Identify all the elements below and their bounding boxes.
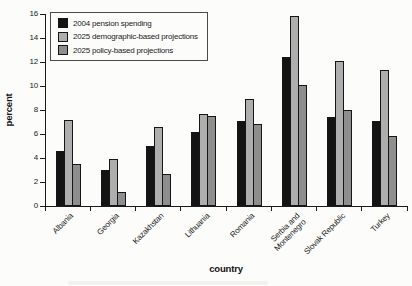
y-tick-label: 0 — [16, 202, 38, 210]
y-tick-label: 10 — [16, 82, 38, 90]
category-label: Lithuania — [184, 212, 212, 240]
category-label: Serbia andMontenegro — [267, 212, 308, 253]
bar-2025-policy-based-projections-2 — [162, 174, 171, 206]
bar-2025-policy-based-projections-5 — [298, 85, 307, 206]
y-tick-label: 14 — [16, 34, 38, 42]
y-tick-mark — [40, 62, 45, 63]
scan-bleed-smudge — [68, 281, 268, 285]
category-label: Albania — [52, 212, 76, 236]
bar-2025-policy-based-projections-0 — [72, 164, 81, 206]
y-tick-mark — [40, 38, 45, 39]
bar-2025-policy-based-projections-3 — [207, 116, 216, 206]
bar-2025-policy-based-projections-1 — [117, 192, 126, 206]
x-tick-mark — [226, 207, 227, 211]
y-tick-mark — [40, 110, 45, 111]
bar-2025-policy-based-projections-6 — [343, 110, 352, 206]
y-tick-label: 6 — [16, 130, 38, 138]
x-tick-mark — [361, 207, 362, 211]
y-tick-mark — [40, 134, 45, 135]
category-label: Romania — [229, 212, 257, 240]
bar-2025-policy-based-projections-7 — [388, 136, 397, 206]
x-tick-mark — [45, 207, 46, 211]
y-tick-mark — [40, 158, 45, 159]
y-tick-label: 12 — [16, 58, 38, 66]
x-tick-mark — [90, 207, 91, 211]
category-label: Georgia — [96, 212, 121, 237]
category-label: Turkey — [370, 212, 392, 234]
y-tick-mark — [40, 182, 45, 183]
category-label: Kazakhstan — [132, 212, 166, 246]
category-label: Slovak Republic — [303, 212, 347, 256]
x-tick-mark — [271, 207, 272, 211]
x-tick-mark — [316, 207, 317, 211]
plot-area — [45, 14, 408, 207]
y-tick-label: 2 — [16, 178, 38, 186]
y-tick-mark — [40, 86, 45, 87]
y-tick-label: 16 — [16, 10, 38, 18]
pension-spending-bar-chart: 2004 pension spending2025 demographic-ba… — [0, 0, 412, 286]
bar-2025-policy-based-projections-4 — [253, 124, 262, 206]
y-axis-title: percent — [3, 94, 14, 127]
y-tick-label: 8 — [16, 106, 38, 114]
x-axis-title: country — [45, 263, 407, 274]
x-tick-mark — [180, 207, 181, 211]
y-tick-label: 4 — [16, 154, 38, 162]
y-tick-mark — [40, 14, 45, 15]
x-tick-mark — [135, 207, 136, 211]
x-tick-mark — [407, 207, 408, 211]
